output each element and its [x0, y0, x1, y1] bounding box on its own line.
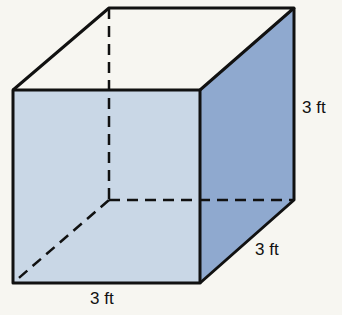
- front-face: [13, 90, 200, 283]
- cube-diagram: [0, 0, 342, 315]
- width-label: 3 ft: [90, 289, 114, 309]
- depth-label: 3 ft: [255, 240, 279, 260]
- height-label: 3 ft: [302, 98, 326, 118]
